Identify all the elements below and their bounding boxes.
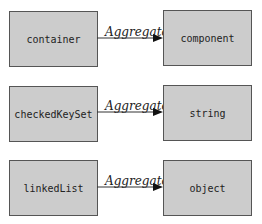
node-linkedList: linkedList: [9, 160, 98, 216]
node-component: component: [163, 10, 252, 66]
aggregate-edge: Aggregate: [97, 103, 163, 123]
node-label: container: [26, 34, 80, 45]
node-checkedKeySet: checkedKeySet: [9, 86, 98, 142]
aggregate-edge: Aggregate: [97, 178, 163, 198]
node-container: container: [9, 11, 98, 67]
arrow-icon: [97, 178, 163, 198]
aggregate-edge: Aggregate: [97, 29, 163, 49]
node-label: component: [180, 33, 234, 44]
node-label: checkedKeySet: [14, 109, 92, 120]
node-object: object: [163, 160, 252, 216]
node-label: string: [189, 108, 225, 119]
arrow-icon: [97, 29, 163, 49]
node-label: object: [189, 183, 225, 194]
node-label: linkedList: [23, 183, 83, 194]
arrow-icon: [97, 103, 163, 123]
node-string: string: [163, 85, 252, 141]
